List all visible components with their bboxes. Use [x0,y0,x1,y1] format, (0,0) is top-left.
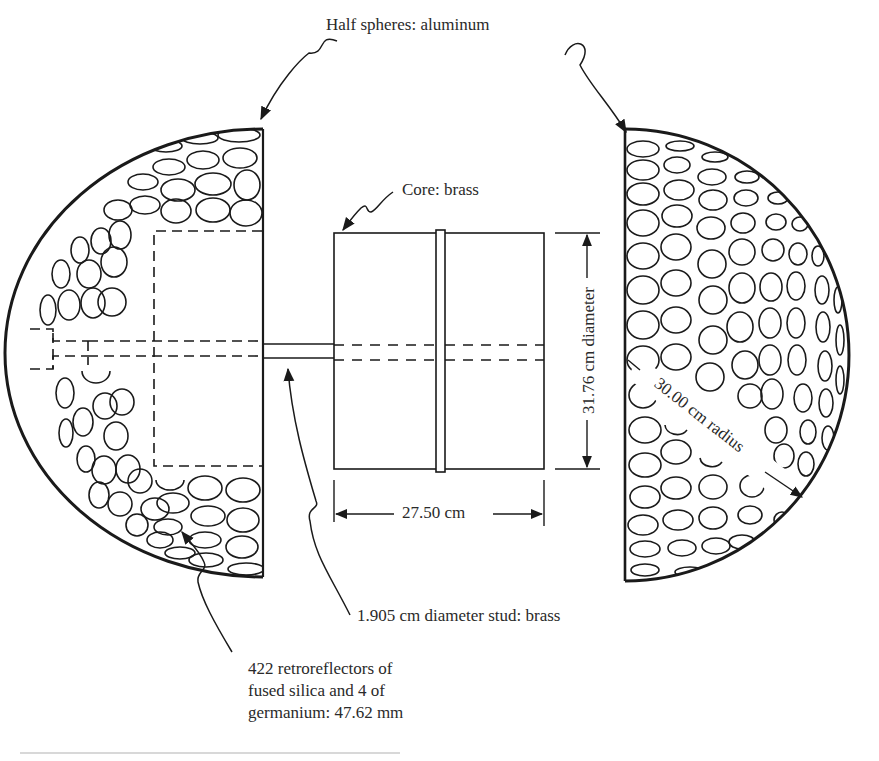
label-core-length: 27.50 cm [402,502,465,523]
left-core-cavity [30,231,262,466]
right-half-sphere [625,129,849,581]
caption-divider [20,752,400,754]
satellite-cross-section-diagram [0,0,879,761]
left-half-sphere [5,128,264,577]
label-retroreflectors-line1: 422 retroreflectors of [248,658,392,679]
label-core: Core: brass [402,179,479,200]
core [334,230,544,472]
label-core-diameter: 31.76 cm diameter [578,287,599,414]
label-retroreflectors-line3: germanium: 47.62 mm [248,702,403,723]
callout-arrows [182,39,626,652]
label-half-spheres: Half spheres: aluminum [326,14,489,35]
left-retroreflector-holes [40,128,264,575]
label-retroreflectors-line2: fused silica and 4 of [248,680,385,701]
label-stud: 1.905 cm diameter stud: brass [357,605,561,626]
right-retroreflector-holes [627,141,844,577]
stud [263,344,334,358]
